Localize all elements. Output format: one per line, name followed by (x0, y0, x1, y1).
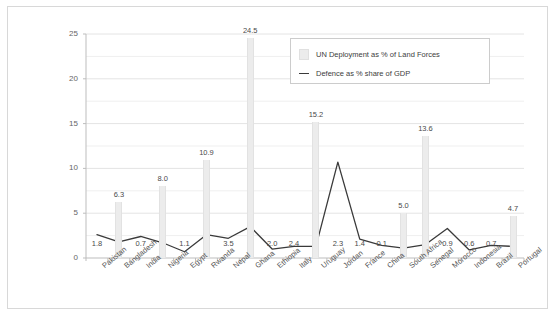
line-value-label: 1.8 (81, 240, 113, 248)
bar (203, 160, 210, 258)
legend-item-defence-gdp: Defence as % share of GDP (299, 66, 410, 80)
y-axis-tick-label: 25 (54, 30, 78, 38)
y-axis-tick-label: 10 (54, 164, 78, 172)
bar-value-label: 13.6 (409, 125, 441, 133)
bar (159, 186, 166, 258)
y-axis-tick-label: 15 (54, 120, 78, 128)
y-axis-tick-label: 20 (54, 75, 78, 83)
bar-value-label: 6.3 (103, 191, 135, 199)
bar (247, 38, 254, 258)
bar (312, 122, 319, 258)
bar-value-label: 15.2 (300, 111, 332, 119)
bar-value-label: 24.5 (234, 27, 266, 35)
chart-legend: UN Deployment as % of Land Forces Defenc… (290, 38, 490, 84)
bar-value-label: 10.9 (190, 149, 222, 157)
legend-label-defence-gdp: Defence as % share of GDP (316, 69, 410, 78)
line-value-label: 0.1 (366, 240, 398, 248)
bar-value-label: 4.7 (497, 205, 529, 213)
y-axis-tick-label: 5 (54, 209, 78, 217)
bar (422, 136, 429, 258)
bar-swatch-icon (299, 49, 309, 60)
y-axis-tick-label: 0 (54, 254, 78, 262)
line-swatch-icon (299, 73, 309, 74)
bar-value-label: 5.0 (388, 202, 420, 210)
legend-item-un-deployment: UN Deployment as % of Land Forces (299, 47, 440, 61)
legend-label-un-deployment: UN Deployment as % of Land Forces (316, 50, 440, 59)
bar-value-label: 8.0 (147, 175, 179, 183)
bar (510, 216, 517, 258)
